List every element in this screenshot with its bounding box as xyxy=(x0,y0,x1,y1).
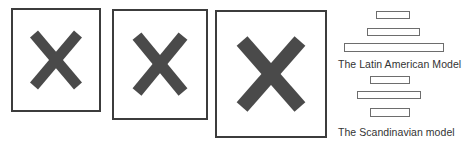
crossed-box-large xyxy=(215,10,327,138)
scandinavian-model-caption: The Scandinavian model xyxy=(338,126,455,138)
x-cross-icon xyxy=(114,11,206,118)
latin-american-bar-top xyxy=(376,11,410,19)
crossed-box-medium xyxy=(112,9,208,120)
latin-american-model-caption: The Latin American Model xyxy=(338,58,461,70)
latin-american-bar-middle xyxy=(367,28,420,36)
x-cross-icon xyxy=(217,12,325,136)
crossed-box-small xyxy=(11,8,101,112)
scandinavian-bar-bottom xyxy=(370,108,410,117)
x-cross-icon xyxy=(13,10,99,110)
latin-american-bar-bottom xyxy=(344,43,444,52)
scandinavian-bar-middle xyxy=(357,91,421,99)
scandinavian-bar-top xyxy=(370,76,410,84)
figure-canvas: The Latin American Model The Scandinavia… xyxy=(0,0,467,147)
